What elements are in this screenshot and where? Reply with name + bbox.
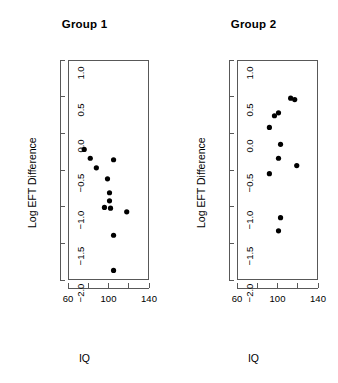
y-tick-label: 0.5 bbox=[74, 97, 88, 123]
data-point bbox=[267, 171, 272, 176]
x-tick-label: 140 bbox=[134, 293, 164, 304]
y-tick-label: −1.0 bbox=[74, 207, 88, 233]
y-tick-label: −1.0 bbox=[243, 207, 257, 233]
data-point bbox=[111, 157, 116, 162]
scatter-plot-figure: Group 1 Log EFT Difference IQ 1.00.50.0−… bbox=[0, 0, 338, 383]
data-point bbox=[276, 110, 281, 115]
y-tick-label: 0.0 bbox=[243, 133, 257, 159]
y-axis-label-group-2: Log EFT Difference bbox=[195, 137, 207, 228]
data-point bbox=[102, 205, 107, 210]
x-tick-label: 100 bbox=[263, 293, 293, 304]
data-point bbox=[88, 156, 93, 161]
data-point bbox=[267, 125, 272, 130]
x-tick-label: 60 bbox=[222, 293, 252, 304]
y-tick-label: 1.0 bbox=[74, 60, 88, 86]
y-tick-label: −1.5 bbox=[243, 243, 257, 269]
y-tick-label: −0.5 bbox=[74, 170, 88, 196]
y-tick-label: 0.5 bbox=[243, 97, 257, 123]
panel-group-1: Group 1 Log EFT Difference IQ 1.00.50.0−… bbox=[0, 0, 169, 383]
y-tick-label: −0.5 bbox=[243, 170, 257, 196]
data-point bbox=[124, 209, 129, 214]
data-point bbox=[294, 163, 299, 168]
x-tick-label: 60 bbox=[53, 293, 83, 304]
x-axis-label-group-2: IQ bbox=[169, 352, 338, 364]
data-point bbox=[94, 165, 99, 170]
data-point bbox=[107, 198, 112, 203]
data-point bbox=[278, 215, 283, 220]
data-point bbox=[292, 97, 297, 102]
data-point bbox=[111, 268, 116, 273]
data-point bbox=[107, 190, 112, 195]
data-point bbox=[278, 142, 283, 147]
y-tick-label: −1.5 bbox=[74, 243, 88, 269]
x-tick-label: 100 bbox=[94, 293, 124, 304]
x-tick-label: 140 bbox=[303, 293, 333, 304]
data-point bbox=[111, 233, 116, 238]
y-tick-label: 1.0 bbox=[243, 60, 257, 86]
y-tick-label: 0.0 bbox=[74, 133, 88, 159]
data-point bbox=[105, 176, 110, 181]
y-axis-label-group-1: Log EFT Difference bbox=[26, 137, 38, 228]
x-axis-label-group-1: IQ bbox=[0, 352, 169, 364]
data-point bbox=[108, 206, 113, 211]
panel-group-2: Group 2 Log EFT Difference IQ 1.00.50.0−… bbox=[169, 0, 338, 383]
data-point bbox=[276, 228, 281, 233]
data-point bbox=[276, 156, 281, 161]
